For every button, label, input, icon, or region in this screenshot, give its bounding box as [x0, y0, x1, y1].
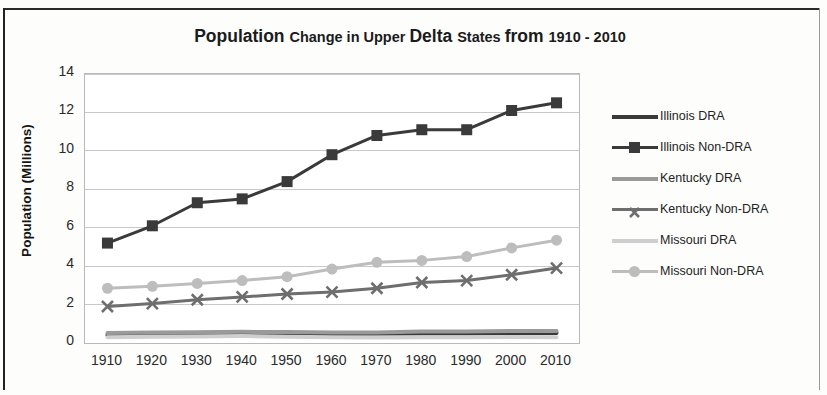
plot-area — [84, 73, 580, 344]
legend-swatch-circle-icon — [612, 264, 658, 278]
series-missouri-dra — [107, 336, 556, 337]
legend-item[interactable]: Kentucky DRA — [612, 162, 817, 193]
legend-line — [612, 177, 658, 181]
legend-item[interactable]: Kentucky Non-DRA — [612, 193, 817, 224]
data-point — [416, 255, 427, 266]
data-point — [282, 176, 293, 187]
data-point — [461, 124, 472, 135]
y-axis-tick-label: 2 — [34, 294, 74, 310]
chart-title: Population Change in Upper Delta States … — [120, 26, 700, 47]
data-series-layer — [85, 74, 579, 343]
y-axis-tick-label: 8 — [34, 178, 74, 194]
chart-title-part-1: Population — [194, 26, 289, 46]
chart-legend: Illinois DRAIllinois Non-DRAKentucky DRA… — [612, 100, 817, 286]
data-point — [237, 275, 248, 286]
data-point — [237, 193, 248, 204]
legend-label: Kentucky DRA — [658, 171, 741, 185]
data-point — [371, 257, 382, 268]
y-axis-tick-label: 0 — [34, 332, 74, 348]
chart-screenshot: Population Change in Upper Delta States … — [0, 0, 827, 395]
y-axis-tick-label: 10 — [34, 140, 74, 156]
y-axis-title-text: Population (Millions) — [19, 106, 34, 276]
legend-item[interactable]: Illinois Non-DRA — [612, 131, 817, 162]
y-axis-tick-label: 6 — [34, 217, 74, 233]
data-point — [461, 251, 472, 262]
chart-title-part-2: Change in Upper — [289, 29, 409, 45]
data-point — [147, 220, 158, 231]
chart-title-part-4: States — [457, 29, 505, 45]
legend-swatch-square-icon — [612, 140, 658, 154]
chart-title-part-5: from — [505, 26, 549, 46]
page-frame-right-border — [819, 8, 820, 390]
legend-label: Illinois Non-DRA — [658, 140, 752, 154]
legend-line — [612, 115, 658, 119]
legend-item[interactable]: Missouri Non-DRA — [612, 255, 817, 286]
y-axis-tick-label: 4 — [34, 255, 74, 271]
legend-swatch-x-icon — [612, 202, 658, 216]
data-point — [416, 124, 427, 135]
legend-item[interactable]: Illinois DRA — [612, 100, 817, 131]
series-illinois-non-dra — [102, 97, 562, 248]
legend-marker-circle-icon — [629, 266, 640, 277]
data-point — [371, 130, 382, 141]
legend-item[interactable]: Missouri DRA — [612, 224, 817, 255]
page-frame-top-border — [3, 8, 819, 10]
series-kentucky-dra — [107, 331, 556, 333]
data-point — [551, 97, 562, 108]
legend-label: Illinois DRA — [658, 109, 725, 123]
series-missouri-non-dra — [102, 235, 562, 294]
y-axis-tick-label: 14 — [34, 63, 74, 79]
data-point — [192, 197, 203, 208]
legend-swatch-none-icon — [612, 233, 658, 247]
legend-label: Missouri Non-DRA — [658, 264, 764, 278]
legend-label: Kentucky Non-DRA — [658, 202, 768, 216]
legend-label: Missouri DRA — [658, 233, 736, 247]
legend-marker-x-icon — [629, 204, 640, 215]
data-point — [506, 105, 517, 116]
data-point — [551, 235, 562, 246]
data-point — [102, 238, 113, 249]
x-axis-tick-label: 2010 — [530, 352, 582, 368]
data-point — [102, 283, 113, 294]
data-point — [192, 278, 203, 289]
legend-line — [612, 239, 658, 243]
legend-swatch-none-icon — [612, 171, 658, 185]
y-axis-tick-label: 12 — [34, 101, 74, 117]
chart-title-part-3: Delta — [409, 26, 457, 46]
data-point — [327, 264, 338, 275]
chart-title-part-6: 1910 - 2010 — [548, 29, 625, 45]
data-point — [327, 149, 338, 160]
legend-swatch-none-icon — [612, 109, 658, 123]
data-point — [282, 271, 293, 282]
legend-marker-square-icon — [629, 142, 640, 153]
page-frame-left-border — [3, 8, 5, 390]
data-point — [506, 242, 517, 253]
data-point — [147, 281, 158, 292]
